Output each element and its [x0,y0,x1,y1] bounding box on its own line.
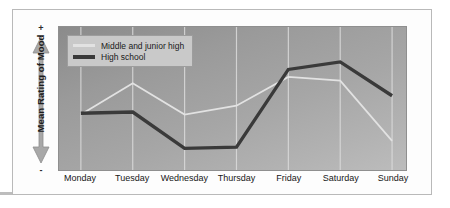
x-tick-label: Tuesday [115,173,149,183]
x-tick-label: Saturday [323,173,359,183]
plot-area: Middle and junior high High school [58,26,407,171]
x-tick-label: Sunday [378,173,409,183]
legend-swatch-middle-and-junior-high [73,44,95,47]
x-axis-labels: MondayTuesdayWednesdayThursdayFridaySatu… [58,173,407,189]
legend-item-middle-and-junior-high: Middle and junior high [73,40,184,51]
series-line [81,77,392,141]
legend: Middle and junior high High school [67,35,193,67]
x-tick-label: Monday [64,173,96,183]
legend-item-high-school: High school [73,51,184,62]
page-edge-mark [0,192,12,195]
figure-root: + - Mean Rating of Mood Middle and junio… [0,0,450,208]
x-tick-label: Friday [276,173,301,183]
legend-swatch-high-school [73,55,95,59]
legend-label-high-school: High school [101,52,145,62]
y-axis-negative-marker: - [26,166,56,175]
x-tick-label: Wednesday [161,173,208,183]
y-axis-title: Mean Rating of Mood [35,28,46,140]
legend-label-middle-and-junior-high: Middle and junior high [101,41,184,51]
x-tick-label: Thursday [218,173,256,183]
y-axis: + - Mean Rating of Mood [26,26,56,174]
